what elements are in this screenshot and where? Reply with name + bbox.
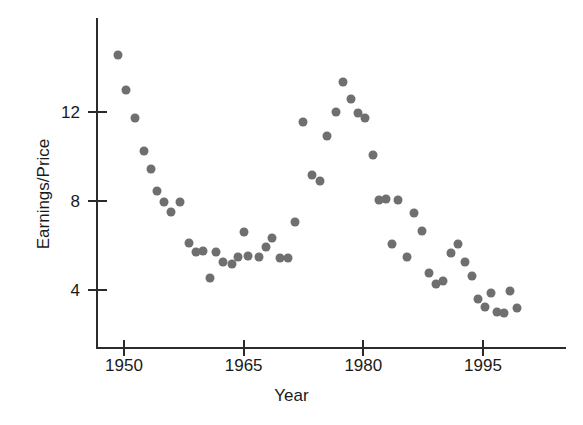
data-point [206,273,215,282]
data-point [447,249,456,258]
scatter-chart-figure: 4812 1950196519801995 Earnings/Price Yea… [0,0,583,425]
data-point [339,77,348,86]
data-point [410,209,419,218]
data-point [268,233,277,242]
data-point [175,198,184,207]
data-point [394,195,403,204]
data-point [198,247,207,256]
data-point [131,113,140,122]
data-point [283,253,292,262]
data-point [167,208,176,217]
data-point [290,218,299,227]
data-point [323,132,332,141]
data-point [460,258,469,267]
data-point [316,176,325,185]
data-point [139,146,148,155]
data-point [254,252,263,261]
data-point [122,85,131,94]
plot-area [0,0,583,425]
data-point [417,227,426,236]
data-point [114,51,123,60]
data-point [227,260,236,269]
data-point [298,118,307,127]
data-point [244,251,253,260]
data-point [506,287,515,296]
data-point [240,228,249,237]
data-point [499,309,508,318]
data-point [211,248,220,257]
data-point [262,242,271,251]
data-point [368,151,377,160]
data-point [486,289,495,298]
data-point [218,258,227,267]
data-point [184,239,193,248]
data-point [159,198,168,207]
data-point [403,252,412,261]
data-point [474,294,483,303]
data-point [360,113,369,122]
data-point [481,302,490,311]
data-point [234,252,243,261]
data-point [454,240,463,249]
data-point [424,269,433,278]
data-point [467,271,476,280]
data-point [147,164,156,173]
data-point [347,94,356,103]
data-point [388,240,397,249]
data-point [439,277,448,286]
data-point [381,194,390,203]
data-point [332,108,341,117]
data-point [152,186,161,195]
data-point [513,303,522,312]
